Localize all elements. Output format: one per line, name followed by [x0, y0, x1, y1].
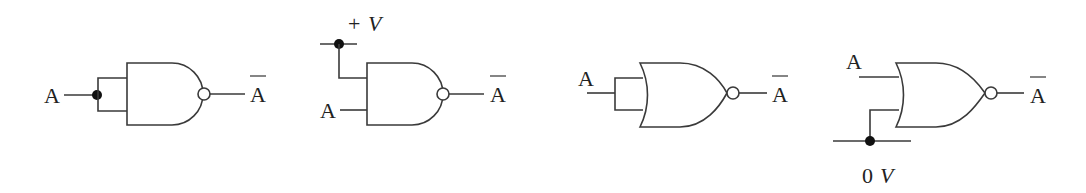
nand-gate-icon: [127, 63, 203, 125]
circuit-nand-inputs-tied: A A: [44, 63, 266, 125]
ground-label-zero: 0: [862, 163, 873, 188]
input-label-a: A: [846, 49, 862, 74]
ground-to-input-wire: [870, 110, 899, 141]
tied-inputs-wire: [98, 78, 127, 111]
nor-gate-icon: [640, 63, 727, 127]
junction-node: [92, 90, 102, 100]
inversion-bubble: [198, 88, 210, 100]
circuit-nor-input-low: A A 0 V: [833, 49, 1046, 188]
inversion-bubble: [727, 87, 739, 99]
input-label-a: A: [44, 83, 60, 108]
nor-gate-icon: [896, 63, 985, 127]
output-label-not-a: A: [250, 82, 266, 107]
inversion-bubble: [985, 87, 997, 99]
ground-node: [865, 136, 875, 146]
circuit-nand-input-high: + V A A: [320, 11, 506, 125]
inversion-bubble: [437, 88, 449, 100]
supply-sign: +: [348, 11, 360, 36]
output-label-not-a: A: [772, 82, 788, 107]
input-label-a: A: [578, 66, 594, 91]
output-label-not-a: A: [1030, 83, 1046, 108]
tied-inputs-wire: [615, 78, 643, 110]
ground-label-v: V: [880, 163, 896, 188]
logic-inverter-diagram: A A + V A A A A A: [0, 0, 1086, 193]
supply-label-v: V: [368, 11, 384, 36]
input-label-a: A: [320, 98, 336, 123]
circuit-nor-inputs-tied: A A: [578, 63, 788, 127]
nand-gate-icon: [367, 63, 443, 125]
output-label-not-a: A: [490, 82, 506, 107]
supply-to-input-wire: [339, 44, 367, 78]
